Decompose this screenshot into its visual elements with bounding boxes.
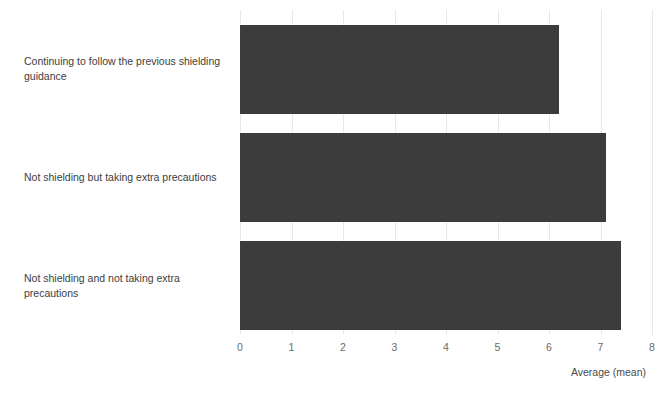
plot-area — [240, 10, 652, 335]
x-tick-label: 0 — [225, 341, 255, 353]
bar-rect — [240, 133, 606, 222]
bar — [240, 241, 621, 330]
x-tick-label: 3 — [380, 341, 410, 353]
bar-rect — [240, 241, 621, 330]
x-tick-label: 8 — [637, 341, 660, 353]
gridline — [652, 10, 653, 335]
x-axis-title: Average (mean) — [240, 366, 652, 378]
x-axis-ticks: 012345678 — [240, 335, 652, 361]
category-axis-labels: Continuing to follow the previous shield… — [0, 10, 228, 335]
x-tick-label: 2 — [328, 341, 358, 353]
x-tick-label: 1 — [277, 341, 307, 353]
x-tick-label: 7 — [586, 341, 616, 353]
bar — [240, 25, 559, 114]
category-label: Not shielding and not taking extra preca… — [24, 271, 228, 301]
x-tick-label: 6 — [534, 341, 564, 353]
category-label: Not shielding but taking extra precautio… — [24, 170, 228, 185]
x-tick-label: 4 — [431, 341, 461, 353]
x-tick-label: 5 — [483, 341, 513, 353]
bar-rect — [240, 25, 559, 114]
bar-series — [240, 10, 652, 335]
category-label: Continuing to follow the previous shield… — [24, 54, 228, 84]
bar — [240, 133, 606, 222]
